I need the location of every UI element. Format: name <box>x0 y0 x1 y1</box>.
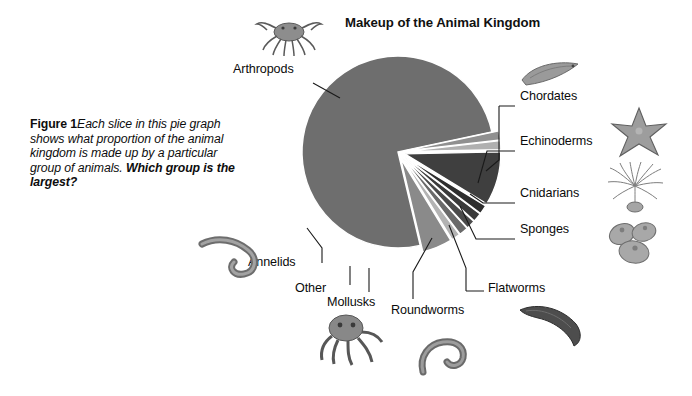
pie-label-arthropods: Arthropods <box>233 62 294 76</box>
pie-label-other: Other <box>295 281 326 295</box>
pie-label-mollusks: Mollusks <box>327 295 375 309</box>
pie-label-echinoderms: Echinoderms <box>520 134 592 148</box>
tunicate-illustration <box>516 58 588 92</box>
earthworm-illustration <box>196 232 280 284</box>
pie-label-roundworms: Roundworms <box>391 303 464 317</box>
roundworm-illustration <box>413 322 483 378</box>
octopus-illustration <box>316 310 388 370</box>
figure-container: Figure 1Each slice in this pie graph sho… <box>0 0 692 396</box>
pie-label-flatworms: Flatworms <box>488 281 545 295</box>
pie-label-cnidarians: Cnidarians <box>520 186 579 200</box>
sea-anemone-illustration <box>604 160 666 216</box>
pie-slices <box>302 56 501 252</box>
crab-illustration <box>252 8 326 58</box>
pie-label-sponges: Sponges <box>520 222 569 236</box>
leader-annelids <box>307 228 322 263</box>
starfish-illustration <box>608 104 670 160</box>
sponge-illustration <box>602 216 668 268</box>
flatworm-illustration <box>516 300 588 352</box>
